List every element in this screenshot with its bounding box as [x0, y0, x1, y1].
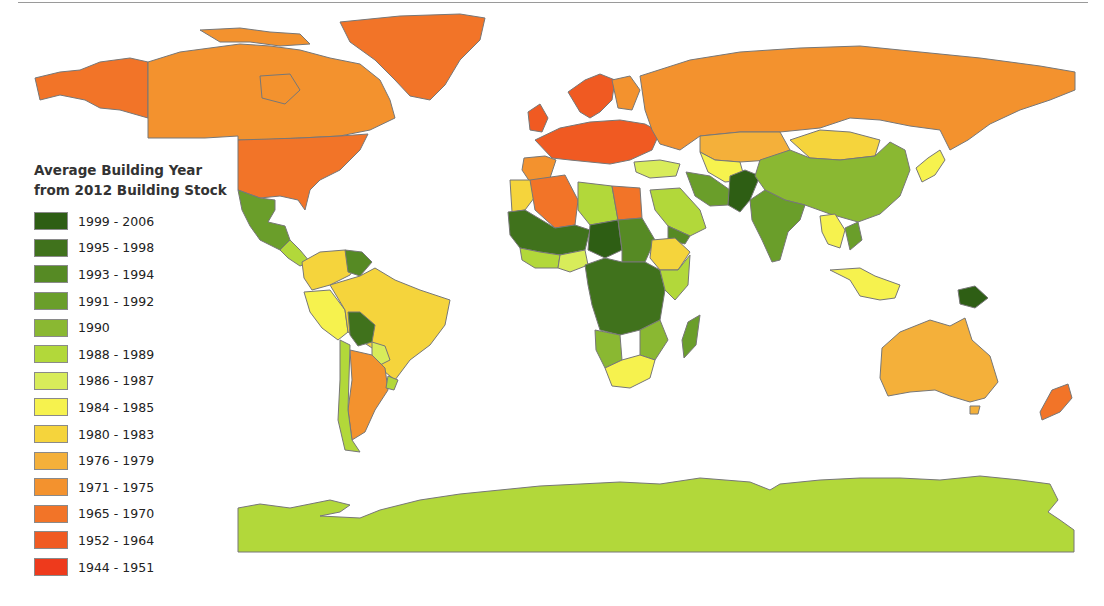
- legend-swatch: [34, 292, 68, 310]
- region-antarctica: [238, 476, 1074, 552]
- legend-swatch: [34, 345, 68, 363]
- region-western-europe: [535, 120, 660, 164]
- region-chad: [588, 220, 622, 258]
- legend-label: 1993 - 1994: [78, 267, 154, 282]
- legend-item: 1995 - 1998: [34, 235, 234, 262]
- legend-swatch: [34, 452, 68, 470]
- legend-swatch: [34, 239, 68, 257]
- region-sudan: [618, 218, 655, 262]
- region-png: [958, 286, 988, 308]
- region-madagascar: [682, 315, 700, 358]
- legend-label: 1991 - 1992: [78, 294, 154, 309]
- legend-swatch: [34, 558, 68, 576]
- legend-label: 1976 - 1979: [78, 453, 154, 468]
- legend-title-line2: from 2012 Building Stock: [34, 180, 234, 200]
- region-mexico: [238, 190, 290, 250]
- region-canada-islands: [200, 28, 310, 46]
- region-canada: [148, 44, 395, 140]
- legend-label: 1965 - 1970: [78, 506, 154, 521]
- legend-swatch: [34, 372, 68, 390]
- region-southeast-asia: [820, 214, 845, 248]
- legend-swatch: [34, 265, 68, 283]
- legend-title-line1: Average Building Year: [34, 160, 234, 180]
- legend-label: 1952 - 1964: [78, 533, 154, 548]
- region-alaska: [35, 58, 148, 118]
- legend-label: 1980 - 1983: [78, 427, 154, 442]
- legend-swatch: [34, 505, 68, 523]
- legend-item: 1971 - 1975: [34, 474, 234, 501]
- region-finland: [612, 76, 640, 110]
- legend-item: 1999 - 2006: [34, 208, 234, 235]
- legend-item: 1991 - 1992: [34, 288, 234, 315]
- legend-item: 1980 - 1983: [34, 421, 234, 448]
- legend-label: 1944 - 1951: [78, 560, 154, 575]
- legend-swatch: [34, 425, 68, 443]
- legend-items: 1999 - 20061995 - 19981993 - 19941991 - …: [34, 208, 234, 580]
- legend-label: 1988 - 1989: [78, 347, 154, 362]
- region-scandinavia: [568, 74, 615, 118]
- region-new-zealand: [1040, 384, 1072, 420]
- region-tasmania: [970, 406, 980, 414]
- legend-item: 1990: [34, 314, 234, 341]
- legend-swatch: [34, 478, 68, 496]
- legend-item: 1988 - 1989: [34, 341, 234, 368]
- legend-item: 1965 - 1970: [34, 501, 234, 528]
- legend-item: 1984 - 1985: [34, 394, 234, 421]
- legend-label: 1995 - 1998: [78, 240, 154, 255]
- legend-item: 1993 - 1994: [34, 261, 234, 288]
- legend-item: 1986 - 1987: [34, 368, 234, 395]
- legend-item: 1976 - 1979: [34, 447, 234, 474]
- region-korea-japan: [916, 150, 945, 182]
- legend-label: 1971 - 1975: [78, 480, 154, 495]
- legend-label: 1984 - 1985: [78, 400, 154, 415]
- legend-label: 1990: [78, 320, 110, 335]
- map-legend: Average Building Year from 2012 Building…: [34, 160, 234, 580]
- region-turkey: [634, 160, 680, 178]
- legend-swatch: [34, 531, 68, 549]
- region-indonesia: [830, 268, 900, 300]
- legend-item: 1952 - 1964: [34, 527, 234, 554]
- region-vietnam: [845, 222, 862, 250]
- legend-swatch: [34, 319, 68, 337]
- legend-label: 1999 - 2006: [78, 214, 154, 229]
- legend-label: 1986 - 1987: [78, 373, 154, 388]
- region-uk: [528, 104, 548, 132]
- region-australia: [880, 318, 998, 402]
- legend-swatch: [34, 398, 68, 416]
- legend-swatch: [34, 212, 68, 230]
- legend-item: 1944 - 1951: [34, 554, 234, 581]
